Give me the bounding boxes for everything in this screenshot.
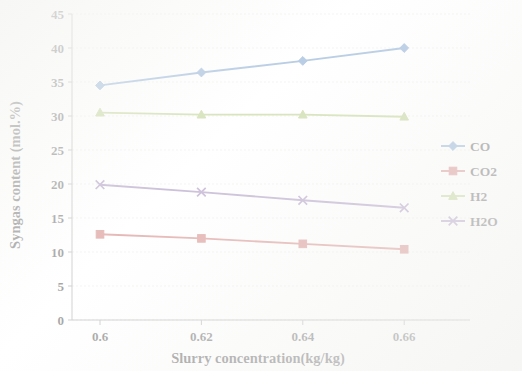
legend-label: H2 — [470, 189, 488, 204]
x-axis-tick-labels: 0.60.620.640.66 — [92, 329, 416, 344]
y-tick-label: 40 — [51, 41, 64, 56]
syngas-content-line-chart: 051015202530354045 0.60.620.640.66 COCO2… — [0, 0, 522, 371]
series-line — [100, 234, 404, 249]
data-point — [298, 57, 307, 66]
x-axis-title: Slurry concentration(kg/kg) — [171, 350, 345, 367]
series-h2o — [96, 180, 409, 212]
legend-label: H2O — [470, 214, 498, 229]
legend-item-co2[interactable]: CO2 — [441, 164, 497, 179]
x-tick-label: 0.62 — [190, 329, 213, 344]
gridlines-group — [72, 14, 470, 320]
x-tick-label: 0.66 — [393, 329, 416, 344]
series-h2 — [96, 108, 409, 120]
series-co — [96, 44, 409, 90]
y-tick-label: 10 — [51, 245, 64, 260]
y-tick-label: 25 — [51, 143, 65, 158]
axes-lines-group — [72, 14, 470, 320]
y-tick-label: 15 — [51, 211, 65, 226]
legend-swatch-marker — [449, 142, 458, 151]
data-point — [197, 68, 206, 77]
data-series-group — [96, 44, 409, 253]
legend-label: CO — [470, 139, 490, 154]
y-tick-label: 5 — [58, 279, 65, 294]
data-point — [198, 235, 206, 243]
legend-item-co[interactable]: CO — [441, 139, 490, 154]
legend-item-h2o[interactable]: H2O — [441, 214, 498, 229]
y-tick-label: 0 — [58, 313, 65, 328]
data-point — [400, 245, 408, 253]
y-tick-label: 45 — [51, 7, 65, 22]
data-point — [400, 44, 409, 53]
series-co2 — [96, 231, 408, 254]
x-tick-label: 0.6 — [92, 329, 109, 344]
legend-item-h2[interactable]: H2 — [441, 189, 488, 204]
chart-canvas: 051015202530354045 0.60.620.640.66 COCO2… — [0, 0, 522, 371]
x-tick-label: 0.64 — [291, 329, 314, 344]
tick-marks-group — [68, 14, 404, 325]
series-line — [100, 48, 404, 85]
y-tick-label: 30 — [51, 109, 64, 124]
y-tick-label: 20 — [51, 177, 64, 192]
data-point — [96, 231, 104, 239]
y-tick-label: 35 — [51, 75, 65, 90]
legend-swatch-marker — [449, 167, 457, 175]
y-axis-title: Syngas content (mol.%) — [7, 101, 24, 249]
data-point — [299, 240, 307, 248]
series-line — [100, 185, 404, 208]
y-axis-tick-labels: 051015202530354045 — [51, 7, 65, 328]
legend-label: CO2 — [470, 164, 497, 179]
